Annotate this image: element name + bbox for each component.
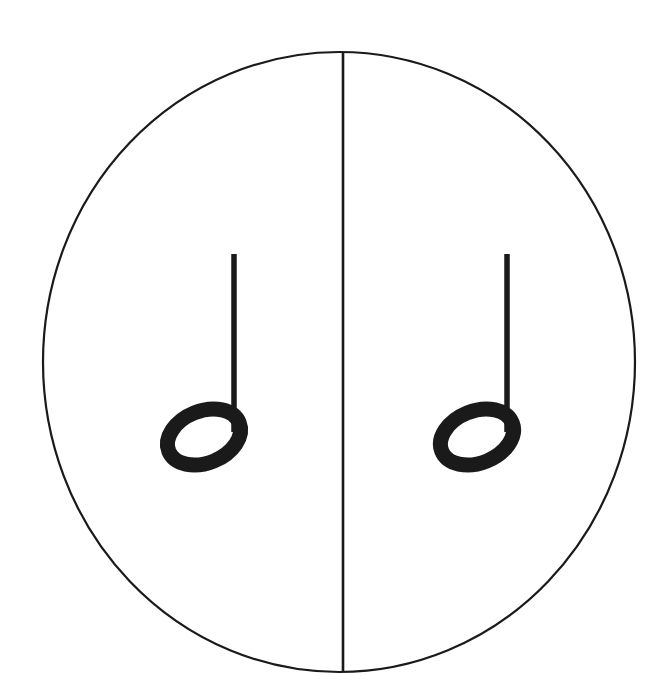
music-circle-diagram	[0, 0, 656, 698]
page-background	[0, 0, 656, 698]
figure-canvas	[0, 0, 656, 698]
